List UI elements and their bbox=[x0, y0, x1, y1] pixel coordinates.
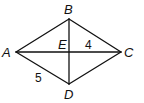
side-bc bbox=[69, 19, 121, 52]
length-label-ad: 5 bbox=[35, 71, 42, 85]
side-da bbox=[16, 52, 69, 84]
side-cd bbox=[69, 52, 121, 84]
vertex-label-e: E bbox=[58, 37, 67, 52]
length-label-ec: 4 bbox=[85, 38, 92, 52]
rhombus-diagram: B A C D E 4 5 bbox=[0, 0, 144, 103]
vertex-label-b: B bbox=[64, 2, 73, 17]
vertex-label-a: A bbox=[1, 45, 11, 60]
vertex-label-c: C bbox=[124, 45, 134, 60]
vertex-label-d: D bbox=[64, 87, 73, 102]
